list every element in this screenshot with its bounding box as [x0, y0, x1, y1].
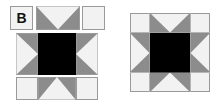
flying-geese-bottom: [38, 77, 76, 100]
corner-square-top-right: [82, 6, 105, 30]
flying-geese-right: [76, 33, 98, 75]
corner-square-bottom-right: [76, 77, 98, 100]
block-label: B: [10, 6, 33, 30]
center-square: [38, 33, 76, 75]
flying-geese-top: [36, 6, 80, 30]
corner-square-bottom-left: [16, 77, 38, 100]
flying-geese-left: [16, 33, 38, 75]
assembled-star-block: [130, 13, 210, 92]
